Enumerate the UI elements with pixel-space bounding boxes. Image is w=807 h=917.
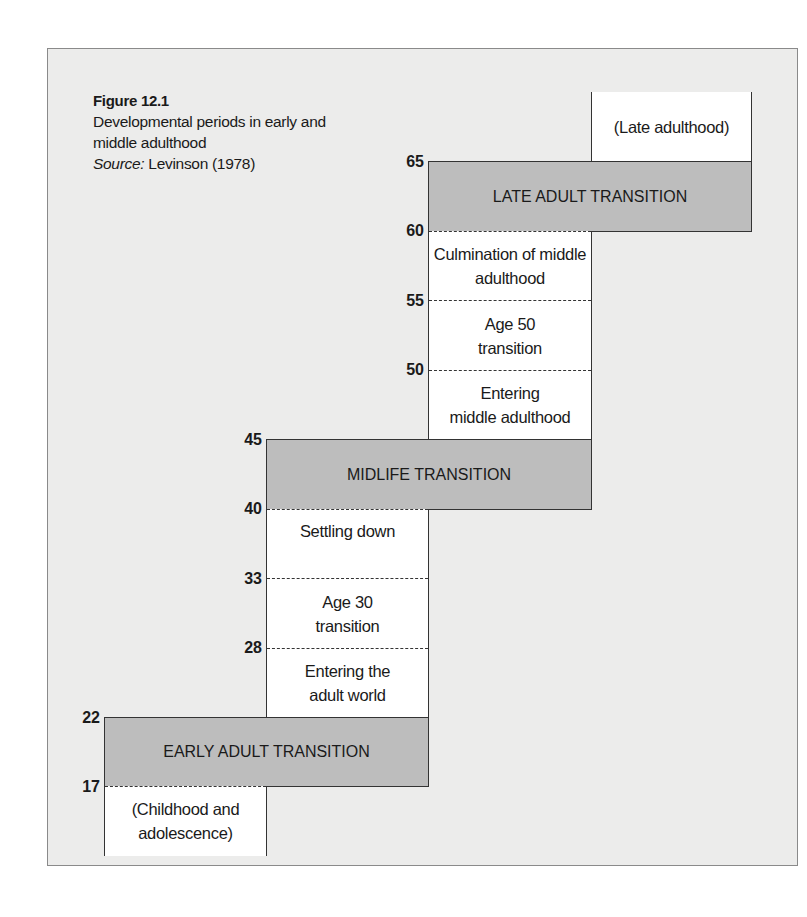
- age-label-60: 60: [394, 222, 424, 240]
- period-entering-adult-world: Entering the adult world: [266, 648, 429, 718]
- period-label: Culmination of middle: [434, 242, 586, 266]
- period-label: adult world: [309, 683, 386, 707]
- period-label: Entering the: [305, 659, 390, 683]
- figure-title-line2: middle adulthood: [93, 132, 393, 153]
- period-label: Age 30: [322, 590, 373, 614]
- age-label-40: 40: [232, 500, 262, 518]
- period-label: Settling down: [300, 519, 395, 543]
- period-late-adult-transition: LATE ADULT TRANSITION: [428, 161, 752, 232]
- period-label: adulthood: [475, 266, 545, 290]
- divider-22: [267, 717, 428, 718]
- age-label-55: 55: [394, 292, 424, 310]
- period-age-30-transition: Age 30 transition: [266, 579, 429, 648]
- divider-60: [429, 231, 591, 232]
- period-label: adolescence): [138, 821, 233, 845]
- period-entering-middle-adulthood: Entering middle adulthood: [428, 370, 592, 440]
- period-settling-down: Settling down: [266, 509, 429, 579]
- divider-40: [267, 509, 428, 510]
- divider-28: [267, 648, 428, 649]
- divider-33: [267, 578, 428, 579]
- period-label: LATE ADULT TRANSITION: [493, 185, 687, 209]
- age-label-65: 65: [394, 153, 424, 171]
- period-age-50-transition: Age 50 transition: [428, 301, 592, 370]
- period-midlife-transition: MIDLIFE TRANSITION: [266, 439, 592, 510]
- figure-label: Figure 12.1: [93, 90, 393, 111]
- divider-55: [429, 300, 591, 301]
- divider-65: [592, 161, 751, 162]
- period-culmination-middle-adulthood: Culmination of middle adulthood: [428, 231, 592, 301]
- period-label: Age 50: [485, 312, 536, 336]
- period-label: transition: [316, 614, 380, 638]
- divider-45: [429, 439, 591, 440]
- figure-source: Source: Levinson (1978): [93, 153, 393, 174]
- age-label-50: 50: [394, 361, 424, 379]
- period-label: transition: [478, 336, 542, 360]
- age-label-28: 28: [232, 639, 262, 657]
- divider-50: [429, 370, 591, 371]
- period-label: Entering: [480, 381, 539, 405]
- source-label: Source:: [93, 155, 144, 172]
- period-label: (Childhood and: [132, 797, 240, 821]
- figure-title-line1: Developmental periods in early and: [93, 111, 393, 132]
- age-label-17: 17: [70, 778, 100, 796]
- period-early-adult-transition: EARLY ADULT TRANSITION: [104, 717, 429, 787]
- divider-17: [105, 786, 266, 787]
- figure-caption: Figure 12.1 Developmental periods in ear…: [93, 90, 393, 174]
- period-label: EARLY ADULT TRANSITION: [163, 740, 370, 764]
- source-text: Levinson (1978): [144, 155, 255, 172]
- age-label-45: 45: [232, 431, 262, 449]
- age-label-33: 33: [232, 570, 262, 588]
- age-label-22: 22: [70, 709, 100, 727]
- period-label: MIDLIFE TRANSITION: [347, 463, 511, 487]
- period-label: (Late adulthood): [614, 115, 729, 139]
- period-label: middle adulthood: [450, 405, 571, 429]
- period-childhood-adolescence: (Childhood and adolescence): [104, 786, 267, 856]
- period-late-adulthood: (Late adulthood): [591, 92, 752, 162]
